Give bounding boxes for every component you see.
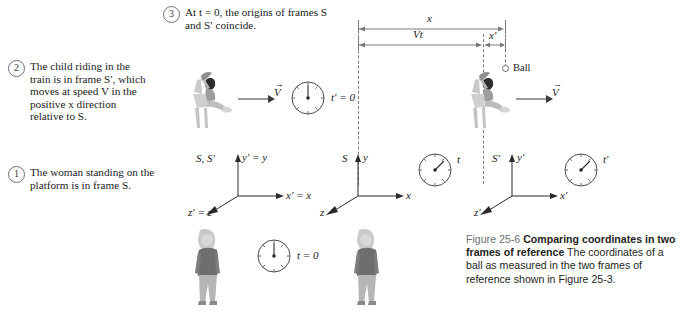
measure-x-arrow xyxy=(358,24,506,34)
clock-train-top-label: t′ = 0 xyxy=(331,91,355,103)
clock-train-bottom xyxy=(563,152,599,188)
ball-label: Ball xyxy=(513,62,531,73)
callout-2: 2 The child riding in the train is in fr… xyxy=(8,60,148,123)
axes-bottom-sprime-y-label: y′ xyxy=(517,151,524,163)
measure-xprime-label: x′ xyxy=(489,29,496,41)
velocity-arrow-top xyxy=(238,92,276,106)
callout-2-badge: 2 xyxy=(8,60,25,77)
callout-3: 3 At t = 0, the origins of frames S and … xyxy=(163,6,333,31)
caption-number: Figure 25-6 xyxy=(466,233,520,245)
measure-vt-label: Vt xyxy=(413,28,423,40)
axes-top-x-label: x′ = x xyxy=(286,189,311,201)
axes-bottom-s-y-label: y xyxy=(363,151,368,163)
clock-platform-top-label: t = 0 xyxy=(297,249,318,261)
axes-bottom-s-z-label: z xyxy=(320,206,324,218)
child-on-train-bottom xyxy=(466,72,514,134)
callout-1-text: The woman standing on the platform is in… xyxy=(30,166,168,191)
callout-1-badge: 1 xyxy=(8,166,25,183)
axes-bottom-sprime-frame-label: S′ xyxy=(492,152,500,164)
figure-caption: Figure 25-6 Comparing coordinates in two… xyxy=(466,233,678,286)
axes-bottom-sprime-x-label: x′ xyxy=(560,189,567,201)
axes-bottom-s-frame-label: S xyxy=(342,152,348,164)
axes-top-z-label: z′ = z xyxy=(188,206,212,218)
clock-platform-bottom-label: t xyxy=(457,153,460,165)
clock-train-top xyxy=(290,80,326,116)
clock-platform-bottom xyxy=(417,152,453,188)
woman-on-platform-bottom xyxy=(345,228,389,306)
figure-25-6: 2 The child riding in the train is in fr… xyxy=(0,0,683,318)
woman-on-platform-top xyxy=(186,228,230,306)
velocity-label-top: → V xyxy=(274,86,281,98)
axes-bottom-s-x-label: x xyxy=(406,189,411,201)
callout-2-text: The child riding in the train is in fram… xyxy=(30,60,148,123)
axes-top-frame-label: S, S′ xyxy=(196,152,215,164)
callout-3-text: At t = 0, the origins of frames S and S′… xyxy=(185,6,333,31)
axes-top-y-label: y′ = y xyxy=(242,151,267,163)
measure-vt-arrow xyxy=(358,40,484,50)
callout-3-badge: 3 xyxy=(163,6,180,23)
velocity-label-bottom: → V xyxy=(552,86,559,98)
measure-xprime-arrow xyxy=(484,40,506,50)
velocity-arrow-bottom xyxy=(516,92,554,106)
axes-bottom-sprime-z-label: z′ xyxy=(474,206,481,218)
clock-platform-top xyxy=(256,238,292,274)
child-on-train-top xyxy=(188,72,236,134)
callout-1: 1 The woman standing on the platform is … xyxy=(8,166,168,191)
measure-x-label: x xyxy=(427,12,432,24)
clock-train-bottom-label: t′ xyxy=(603,153,608,165)
